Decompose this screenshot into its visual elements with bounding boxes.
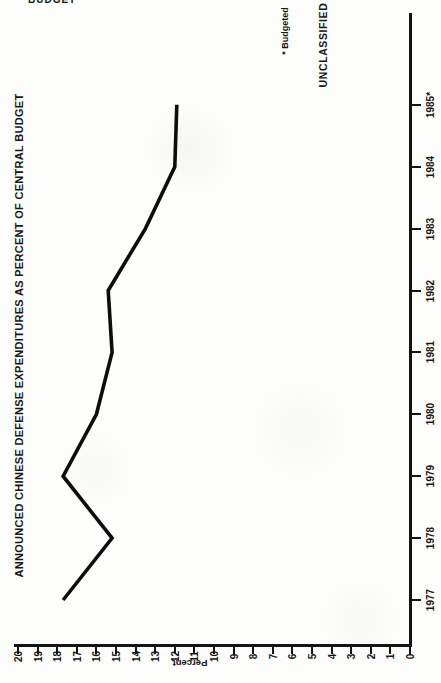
percent-tick-label: 0 bbox=[404, 646, 417, 668]
percent-tick-label: 15 bbox=[110, 646, 123, 668]
percent-tick-label: 6 bbox=[286, 646, 299, 668]
year-tick-label: 1981 bbox=[425, 334, 437, 370]
percent-tick-label: 2 bbox=[364, 646, 377, 668]
axes bbox=[14, 13, 421, 654]
year-tick-label: 1978 bbox=[425, 520, 437, 556]
year-tick-label: 1984 bbox=[425, 149, 437, 185]
scanned-chart-page: BUDGET ANNOUNCED CHINESE DEFENSE EXPENDI… bbox=[0, 0, 441, 683]
percent-tick-label: 20 bbox=[12, 646, 25, 668]
defense-expenditure-line bbox=[63, 105, 177, 600]
year-tick-label: 1983 bbox=[425, 211, 437, 247]
percent-tick-label: 1 bbox=[384, 646, 397, 668]
percent-tick-label: 18 bbox=[51, 646, 64, 668]
year-tick-label: 1980 bbox=[425, 396, 437, 432]
percent-tick-label: 3 bbox=[345, 646, 358, 668]
percent-tick-label: 9 bbox=[227, 646, 240, 668]
percent-tick-label: 17 bbox=[70, 646, 83, 668]
value-axis-label: Percent bbox=[160, 656, 220, 669]
chart-canvas bbox=[0, 0, 441, 683]
percent-tick-label: 4 bbox=[325, 646, 338, 668]
year-tick-label: 1985* bbox=[425, 87, 437, 123]
year-tick-label: 1977 bbox=[425, 582, 437, 618]
percent-tick-label: 7 bbox=[266, 646, 279, 668]
percent-tick-label: 19 bbox=[31, 646, 44, 668]
year-tick-label: 1979 bbox=[425, 458, 437, 494]
percent-tick-label: 16 bbox=[90, 646, 103, 668]
percent-tick-label: 8 bbox=[247, 646, 260, 668]
percent-tick-label: 5 bbox=[306, 646, 319, 668]
percent-tick-label: 14 bbox=[129, 646, 142, 668]
year-tick-label: 1982 bbox=[425, 273, 437, 309]
